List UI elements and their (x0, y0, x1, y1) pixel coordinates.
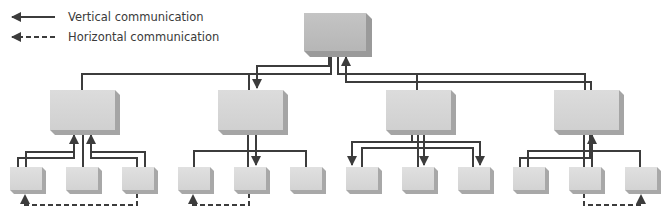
legend-horizontal: Horizontal communication (12, 30, 219, 44)
middle-management-box-2 (218, 90, 288, 135)
employee-box-4-1 (513, 167, 549, 194)
employee-box-3-1 (346, 167, 382, 194)
horizontal-communication (25, 193, 641, 205)
legend-horizontal-label: Horizontal communication (68, 30, 219, 44)
employee-box-1-1 (10, 167, 46, 194)
connectors-middle-bottom (18, 133, 640, 167)
middle-management-box-3 (386, 90, 456, 135)
top-management-box (304, 13, 372, 57)
employee-box-1-3 (122, 167, 158, 194)
legend: Vertical communication Horizontal commun… (12, 10, 219, 44)
employee-box-4-3 (625, 167, 661, 194)
employee-box-4-2 (569, 167, 605, 194)
legend-vertical-label: Vertical communication (68, 10, 204, 24)
employee-box-1-2 (66, 167, 102, 194)
employee-box-2-1 (178, 167, 214, 194)
employee-box-2-3 (290, 167, 326, 194)
middle-management-box-4 (554, 90, 624, 135)
employee-box-2-2 (234, 167, 270, 194)
employee-box-3-3 (458, 167, 494, 194)
organizational-communication-diagram: Vertical communication Horizontal commun… (0, 0, 669, 224)
bottom-row (10, 167, 661, 194)
employee-box-3-2 (402, 167, 438, 194)
connectors-top-middle (82, 55, 591, 90)
middle-management-box-1 (50, 90, 120, 135)
legend-vertical: Vertical communication (12, 10, 204, 24)
